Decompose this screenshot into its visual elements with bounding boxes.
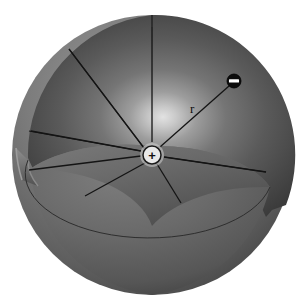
radius-label: r	[190, 101, 195, 116]
positive-charge: +	[140, 143, 164, 167]
negative-charge	[227, 74, 241, 88]
figure-container: + r	[0, 0, 301, 306]
cutaway-sphere-diagram: + r	[0, 0, 301, 306]
positive-charge-symbol: +	[148, 148, 156, 163]
